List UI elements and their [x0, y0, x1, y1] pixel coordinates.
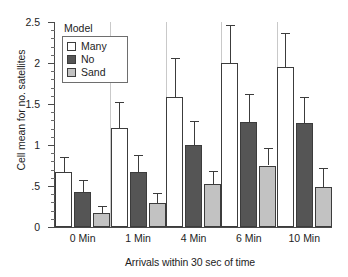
bar-many-10-min — [277, 67, 294, 227]
error-bar-stem — [157, 193, 158, 204]
legend-swatch-icon — [67, 55, 76, 64]
legend-title: Model — [64, 22, 93, 34]
error-bar-stem — [268, 148, 269, 165]
error-bar-cap — [153, 193, 162, 194]
bar-no-1-min — [130, 172, 147, 227]
error-bar-cap — [300, 97, 309, 98]
y-tick-minor — [51, 30, 55, 31]
x-axis-label-4-min: 4 Min — [166, 232, 221, 244]
y-tick-minor — [51, 120, 55, 121]
x-axis-title: Arrivals within 30 sec of time — [45, 256, 335, 268]
y-tick-minor — [51, 38, 55, 39]
bar-sand-10-min — [315, 187, 332, 227]
error-bar-stem — [194, 121, 195, 145]
bar-sand-4-min — [204, 184, 221, 227]
bar-many-4-min — [166, 97, 183, 227]
error-bar-cap — [226, 25, 235, 26]
bar-sand-6-min — [259, 166, 276, 228]
y-tick-label: 1 — [10, 139, 40, 151]
y-tick-minor — [51, 47, 55, 48]
legend-item-label: No — [81, 53, 94, 66]
error-bar-stem — [64, 157, 65, 172]
y-tick-minor — [51, 71, 55, 72]
error-bar-cap — [264, 148, 273, 149]
error-bar-stem — [102, 206, 103, 213]
bar-many-6-min — [221, 63, 238, 227]
y-tick-minor — [51, 170, 55, 171]
bar-many-0-min — [55, 172, 72, 227]
error-bar-cap — [209, 171, 218, 172]
legend-item-no: No — [67, 53, 123, 66]
error-bar-stem — [83, 180, 84, 191]
x-axis-label-6-min: 6 Min — [221, 232, 276, 244]
y-tick-minor — [51, 153, 55, 154]
y-tick-minor — [51, 112, 55, 113]
bar-no-10-min — [296, 123, 313, 227]
y-tick-label: 0 — [10, 221, 40, 233]
error-bar-stem — [119, 102, 120, 127]
y-tick-label: 2 — [10, 57, 40, 69]
bar-sand-1-min — [149, 203, 166, 227]
legend-item-many: Many — [67, 40, 123, 53]
y-tick-minor — [51, 88, 55, 89]
y-tick-major — [48, 63, 55, 64]
y-tick-major — [48, 227, 55, 228]
x-axis-line — [54, 227, 332, 228]
y-tick-minor — [51, 79, 55, 80]
error-bar-cap — [98, 206, 107, 207]
y-tick-minor — [51, 161, 55, 162]
error-bar-stem — [175, 58, 176, 97]
legend-item-label: Many — [81, 40, 107, 53]
legend-item-label: Sand — [81, 66, 106, 79]
bar-no-4-min — [185, 145, 202, 227]
bar-chart: Cell mean for no. satellites Arrivals wi… — [0, 0, 348, 277]
error-bar-cap — [190, 121, 199, 122]
y-axis-title: Cell mean for no. satellites — [15, 15, 27, 205]
x-axis-label-1-min: 1 Min — [110, 232, 165, 244]
error-bar-cap — [319, 168, 328, 169]
y-tick-minor — [51, 55, 55, 56]
error-bar-stem — [138, 155, 139, 172]
error-bar-cap — [115, 102, 124, 103]
error-bar-cap — [171, 58, 180, 59]
y-tick-label: 2.5 — [10, 16, 40, 28]
y-tick-minor — [51, 129, 55, 130]
y-tick-label: .5 — [10, 180, 40, 192]
error-bar-cap — [281, 33, 290, 34]
error-bar-stem — [249, 94, 250, 122]
error-bar-stem — [304, 97, 305, 123]
y-tick-major — [48, 104, 55, 105]
y-tick-minor — [51, 137, 55, 138]
y-tick-label: 1.5 — [10, 98, 40, 110]
bar-no-6-min — [240, 122, 257, 227]
bar-many-1-min — [111, 128, 128, 227]
legend: ManyNoSand — [62, 36, 128, 83]
legend-swatch-icon — [67, 42, 76, 51]
error-bar-cap — [245, 94, 254, 95]
error-bar-cap — [79, 180, 88, 181]
error-bar-stem — [213, 171, 214, 184]
bar-sand-0-min — [93, 213, 110, 227]
bar-no-0-min — [74, 192, 91, 227]
y-tick-major — [48, 22, 55, 23]
y-tick-major — [48, 145, 55, 146]
x-axis-label-0-min: 0 Min — [55, 232, 110, 244]
error-bar-cap — [60, 157, 69, 158]
y-tick-major — [48, 186, 55, 187]
error-bar-cap — [134, 155, 143, 156]
legend-swatch-icon — [67, 68, 76, 77]
error-bar-stem — [323, 168, 324, 187]
error-bar-stem — [285, 33, 286, 67]
x-axis-label-10-min: 10 Min — [277, 232, 332, 244]
legend-item-sand: Sand — [67, 66, 123, 79]
error-bar-stem — [230, 25, 231, 63]
y-tick-minor — [51, 96, 55, 97]
